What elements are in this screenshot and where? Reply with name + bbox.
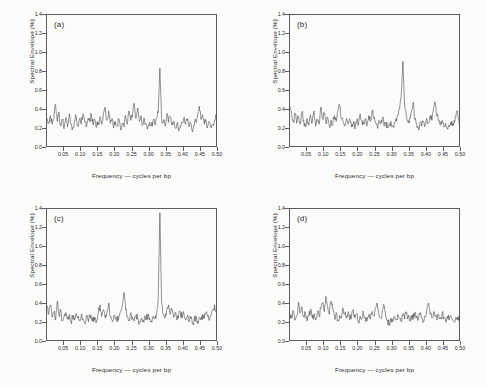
x-tick-mark — [97, 341, 98, 345]
y-tick-label: 0.2 — [263, 319, 285, 325]
x-tick-mark — [426, 341, 427, 345]
x-tick-mark — [357, 341, 358, 345]
y-tick-mark — [285, 109, 289, 110]
x-axis-label: Frequency — cycles per bp — [289, 366, 460, 373]
y-tick-label: 0.2 — [20, 319, 42, 325]
y-tick-mark — [285, 246, 289, 247]
panel-d: (d)Spectral Envelope (%)0.00.20.40.60.81… — [243, 194, 486, 387]
y-tick-label: 0.6 — [263, 281, 285, 287]
y-tick-mark — [285, 341, 289, 342]
x-tick-label: 0.50 — [448, 151, 472, 157]
y-tick-mark — [42, 265, 46, 266]
y-tick-mark — [285, 303, 289, 304]
x-tick-mark — [357, 147, 358, 151]
y-tick-label: 0.8 — [20, 262, 42, 268]
y-tick-label: 1.0 — [20, 49, 42, 55]
y-tick-mark — [42, 246, 46, 247]
x-tick-mark — [80, 147, 81, 151]
x-tick-mark — [132, 147, 133, 151]
y-tick-mark — [42, 341, 46, 342]
y-tick-label: 0.8 — [20, 68, 42, 74]
y-tick-label: 0.8 — [263, 68, 285, 74]
y-tick-mark — [42, 71, 46, 72]
y-tick-label: 1.4 — [20, 11, 42, 17]
y-tick-mark — [42, 303, 46, 304]
y-tick-label: 1.2 — [263, 224, 285, 230]
x-axis-label: Frequency — cycles per bp — [46, 172, 217, 179]
y-tick-mark — [285, 128, 289, 129]
spectral-trace — [289, 14, 460, 147]
y-tick-label: 0.2 — [20, 125, 42, 131]
y-tick-mark — [42, 227, 46, 228]
x-tick-mark — [166, 147, 167, 151]
y-tick-label: 0.0 — [20, 338, 42, 344]
x-tick-mark — [323, 341, 324, 345]
panel-b: (b)Spectral Envelope (%)0.00.20.40.60.81… — [243, 0, 486, 193]
x-tick-mark — [426, 147, 427, 151]
y-tick-label: 0.2 — [263, 125, 285, 131]
y-tick-mark — [285, 322, 289, 323]
x-tick-mark — [460, 147, 461, 151]
x-tick-mark — [97, 147, 98, 151]
x-tick-mark — [80, 341, 81, 345]
y-tick-label: 0.6 — [263, 87, 285, 93]
y-tick-mark — [285, 227, 289, 228]
y-tick-mark — [285, 71, 289, 72]
spectral-trace — [289, 208, 460, 341]
x-tick-mark — [200, 341, 201, 345]
x-tick-mark — [114, 341, 115, 345]
y-tick-mark — [42, 322, 46, 323]
x-tick-mark — [200, 147, 201, 151]
x-tick-mark — [217, 147, 218, 151]
y-tick-label: 1.4 — [263, 11, 285, 17]
x-tick-mark — [306, 147, 307, 151]
x-axis-label: Frequency — cycles per bp — [289, 172, 460, 179]
y-tick-label: 0.4 — [20, 300, 42, 306]
y-tick-label: 1.0 — [263, 243, 285, 249]
panel-label: (d) — [297, 214, 307, 223]
x-tick-mark — [409, 147, 410, 151]
y-tick-mark — [285, 147, 289, 148]
panel-label: (a) — [54, 20, 64, 29]
y-tick-label: 1.4 — [263, 205, 285, 211]
x-tick-label: 0.50 — [448, 345, 472, 351]
x-tick-mark — [217, 341, 218, 345]
y-tick-label: 1.2 — [20, 224, 42, 230]
y-tick-label: 0.4 — [20, 106, 42, 112]
panel-label: (c) — [54, 214, 64, 223]
x-tick-mark — [460, 341, 461, 345]
y-tick-mark — [42, 147, 46, 148]
y-tick-mark — [42, 33, 46, 34]
y-tick-label: 1.2 — [20, 30, 42, 36]
x-tick-mark — [443, 341, 444, 345]
y-tick-label: 0.0 — [263, 144, 285, 150]
y-tick-label: 0.8 — [263, 262, 285, 268]
x-tick-mark — [63, 341, 64, 345]
y-tick-mark — [42, 128, 46, 129]
y-tick-label: 1.4 — [20, 205, 42, 211]
y-tick-label: 1.0 — [263, 49, 285, 55]
y-tick-mark — [42, 109, 46, 110]
x-tick-mark — [340, 147, 341, 151]
panel-a: (a)Spectral Envelope (%)0.00.20.40.60.81… — [0, 0, 243, 193]
x-tick-mark — [340, 341, 341, 345]
x-tick-mark — [392, 341, 393, 345]
y-tick-label: 0.4 — [263, 300, 285, 306]
x-tick-mark — [149, 147, 150, 151]
y-tick-label: 0.6 — [20, 281, 42, 287]
x-tick-mark — [323, 147, 324, 151]
x-tick-mark — [149, 341, 150, 345]
y-tick-mark — [42, 90, 46, 91]
y-tick-label: 1.0 — [20, 243, 42, 249]
y-tick-label: 1.2 — [263, 30, 285, 36]
x-tick-mark — [443, 147, 444, 151]
y-tick-mark — [285, 208, 289, 209]
x-tick-mark — [409, 341, 410, 345]
x-tick-mark — [183, 341, 184, 345]
y-tick-mark — [42, 208, 46, 209]
y-tick-mark — [285, 33, 289, 34]
x-tick-mark — [392, 147, 393, 151]
spectral-trace — [46, 208, 217, 341]
x-tick-mark — [63, 147, 64, 151]
y-tick-label: 0.4 — [263, 106, 285, 112]
